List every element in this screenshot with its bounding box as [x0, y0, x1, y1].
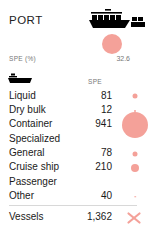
- row-label: Liquid: [9, 90, 36, 101]
- port-summary-card: PORT SPE (%) 32.6: [0, 0, 152, 232]
- row-dot-cell: [118, 118, 152, 132]
- spe-summary-row: SPE (%) 32.6: [0, 55, 152, 69]
- row-value: 81: [62, 90, 112, 101]
- row-dot-marker: [131, 164, 139, 172]
- row-value: 12: [62, 104, 112, 115]
- table-row[interactable]: Passenger: [0, 175, 152, 189]
- row-value: 941: [62, 118, 112, 129]
- table-row[interactable]: Liquid81: [0, 89, 152, 103]
- table-row[interactable]: Cruise ship210: [0, 161, 152, 175]
- table-row[interactable]: Specialized: [0, 132, 152, 146]
- table-row[interactable]: Other40: [0, 190, 152, 204]
- row-label: Container: [9, 118, 52, 129]
- row-label: Other: [9, 190, 34, 201]
- row-dot-marker: [134, 196, 136, 198]
- page-title: PORT: [9, 14, 43, 26]
- footer-total-label: Vessels: [9, 211, 43, 222]
- table-header: SPE: [0, 72, 152, 90]
- spe-summary-marker: [88, 32, 146, 56]
- row-dot-cell: [118, 190, 152, 204]
- row-label: Dry bulk: [9, 104, 46, 115]
- spe-metric-label: SPE (%): [9, 55, 36, 62]
- row-dot-cell: [118, 89, 152, 103]
- row-label: Cruise ship: [9, 161, 59, 172]
- spe-metric-value: 32.6: [92, 55, 130, 62]
- table-row[interactable]: Container941: [0, 118, 152, 132]
- tanker-ship-icon: [8, 73, 38, 85]
- row-dot-marker: [133, 151, 138, 156]
- row-label: General: [9, 147, 45, 158]
- container-ship-icon: [88, 8, 146, 30]
- spe-circle-marker: [102, 34, 122, 54]
- footer-divider: [9, 205, 137, 206]
- row-dot-cell: [118, 161, 152, 175]
- footer-total-value: 1,362: [62, 211, 112, 222]
- column-header-spe: SPE: [80, 78, 110, 85]
- row-dot-marker: [133, 94, 138, 99]
- row-dot-cell: [118, 147, 152, 161]
- row-label: Specialized: [9, 133, 60, 144]
- row-dot-cell: [118, 175, 152, 189]
- table-row[interactable]: General78: [0, 147, 152, 161]
- row-value: 210: [62, 161, 112, 172]
- footer-total-row: Vessels 1,362: [0, 210, 152, 226]
- x-cross-marker: [126, 211, 142, 225]
- row-value: 40: [62, 190, 112, 201]
- data-row-list: Liquid81Dry bulk12Container941Specialize…: [0, 89, 152, 204]
- row-dot-cell: [118, 132, 152, 146]
- row-label: Passenger: [9, 176, 57, 187]
- row-value: 78: [62, 147, 112, 158]
